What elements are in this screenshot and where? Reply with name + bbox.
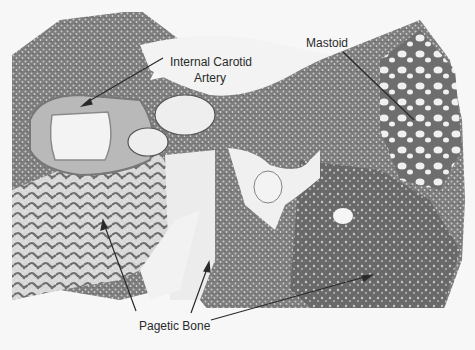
label-artery: Artery — [194, 71, 226, 85]
label-pagetic-bone: Pagetic Bone — [139, 319, 210, 333]
micrograph — [0, 0, 475, 350]
histology-figure: Internal Carotid Artery Mastoid Pagetic … — [0, 0, 475, 350]
label-internal-carotid: Internal Carotid — [170, 55, 252, 69]
label-mastoid: Mastoid — [306, 36, 348, 50]
